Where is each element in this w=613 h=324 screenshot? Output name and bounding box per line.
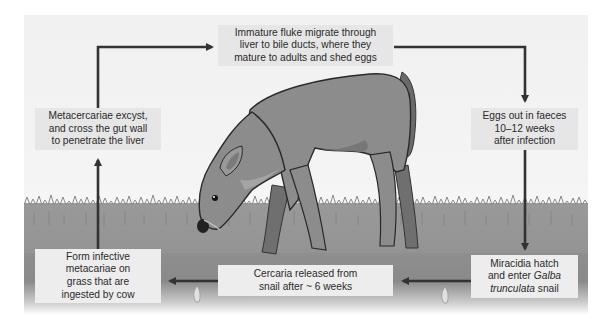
step-text-line: Miracidia hatch bbox=[490, 258, 559, 269]
step-text-line: Eggs out in faeces bbox=[483, 110, 567, 121]
step-text-line: to penetrate the liver bbox=[52, 135, 145, 146]
step-miracidia-hatch: Miracidia hatch and enter Galba truncula… bbox=[471, 255, 578, 298]
step-text-line: Cercaria released from bbox=[254, 268, 358, 279]
arrow-metacercariae-to-fluke bbox=[98, 47, 212, 108]
step-text-line: Immature fluke migrate through bbox=[235, 27, 377, 38]
step-text-line: Form infective bbox=[66, 251, 130, 262]
step-text-line: snail bbox=[535, 283, 559, 294]
step-metacercariae-excyst: Metacercariae excyst, and cross the gut … bbox=[35, 108, 161, 150]
species-name-epithet: trunculata bbox=[490, 283, 535, 294]
step-text-line: metacariae on bbox=[66, 263, 131, 274]
step-text-line: and enter bbox=[488, 270, 534, 281]
step-text-line: ingested by cow bbox=[61, 289, 134, 300]
step-text-line: mature to adults and shed eggs bbox=[234, 52, 377, 63]
step-text-line: liver to bile ducts, where they bbox=[240, 39, 371, 50]
step-text-line: and cross the gut wall bbox=[49, 123, 148, 134]
step-text-line: after infection bbox=[494, 135, 555, 146]
step-immature-fluke: Immature fluke migrate through liver to … bbox=[218, 25, 393, 66]
step-text-line: grass that are bbox=[67, 276, 129, 287]
step-text-line: snail after ~ 6 weeks bbox=[259, 281, 352, 292]
step-text-line: Metacercariae excyst, bbox=[48, 110, 147, 121]
step-cercaria-released: Cercaria released from snail after ~ 6 w… bbox=[218, 265, 393, 296]
step-text-line: 10–12 weeks bbox=[494, 123, 554, 134]
arrow-fluke-to-eggs bbox=[394, 47, 525, 101]
step-form-infective: Form infective metacariae on grass that … bbox=[35, 249, 161, 303]
step-eggs-out: Eggs out in faeces 10–12 weeks after inf… bbox=[471, 108, 578, 150]
species-name-genus: Galba bbox=[534, 270, 561, 281]
